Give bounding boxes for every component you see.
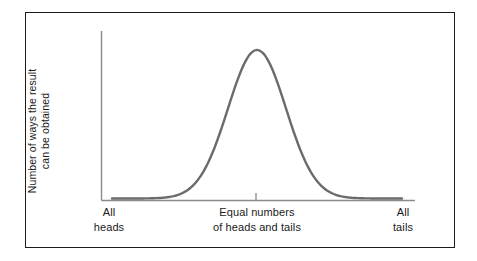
x-axis-label-right-line1: All — [368, 205, 438, 220]
y-axis-title: Number of ways the result can be obtaine… — [26, 46, 52, 216]
figure-root: Number of ways the result can be obtaine… — [0, 0, 477, 261]
bell-curve-line — [112, 50, 402, 199]
x-axis-label-center: Equal numbers of heads and tails — [186, 205, 328, 234]
x-axis-label-right: All tails — [368, 205, 438, 234]
x-axis-label-left-line2: heads — [74, 220, 144, 235]
x-axis-label-left: All heads — [74, 205, 144, 234]
x-axis-label-right-line2: tails — [368, 220, 438, 235]
y-axis-title-line2: can be obtained — [39, 46, 52, 216]
y-axis-title-line1: Number of ways the result — [26, 46, 39, 216]
x-axis-label-center-line1: Equal numbers — [186, 205, 328, 220]
x-axis-label-center-line2: of heads and tails — [186, 220, 328, 235]
x-axis-label-left-line1: All — [74, 205, 144, 220]
